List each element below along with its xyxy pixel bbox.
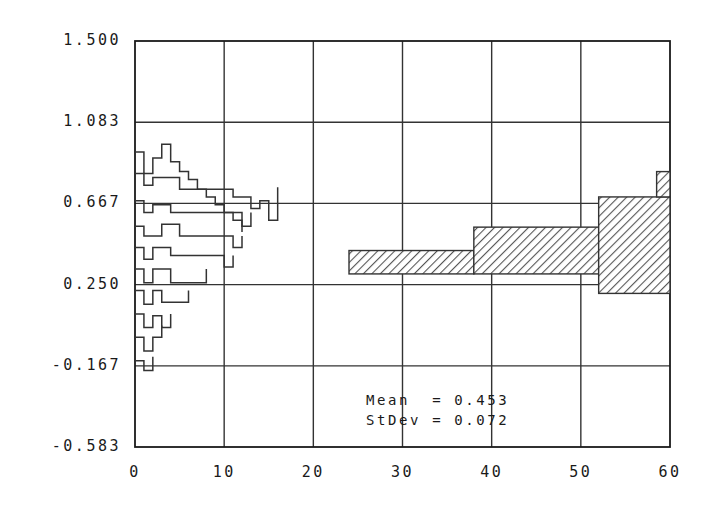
annotation-stdev: StDev = 0.072	[366, 412, 509, 428]
x-tick-label: 10	[184, 463, 264, 481]
staircase-traces	[135, 144, 278, 370]
band-segment	[599, 197, 670, 293]
trace-path	[135, 144, 242, 232]
trace-path	[135, 224, 242, 247]
trace-path	[135, 314, 171, 328]
band-segment	[349, 251, 474, 274]
annotation-mean: Mean = 0.453	[366, 392, 509, 408]
chart-container: 1.5001.0830.6670.250-0.167-0.583 0102030…	[0, 0, 704, 505]
plot-area-svg	[0, 0, 704, 505]
hatched-band	[349, 172, 670, 294]
x-tick-label: 30	[363, 463, 443, 481]
y-tick-label: 0.667	[63, 193, 121, 211]
y-tick-label: 1.500	[63, 31, 121, 49]
x-tick-label: 20	[273, 463, 353, 481]
y-tick-label: -0.583	[52, 437, 121, 455]
trace-path	[135, 269, 206, 283]
x-tick-label: 0	[95, 463, 175, 481]
x-tick-label: 50	[541, 463, 621, 481]
trace-path	[135, 357, 153, 371]
trace-path	[135, 290, 189, 304]
y-tick-label: 0.250	[63, 275, 121, 293]
x-tick-label: 40	[452, 463, 532, 481]
y-tick-label: -0.167	[52, 356, 121, 374]
trace-path	[135, 248, 233, 267]
x-tick-label: 60	[630, 463, 704, 481]
band-segment	[657, 172, 670, 197]
y-tick-label: 1.083	[63, 112, 121, 130]
band-segment	[474, 227, 599, 274]
trace-path	[135, 326, 162, 351]
